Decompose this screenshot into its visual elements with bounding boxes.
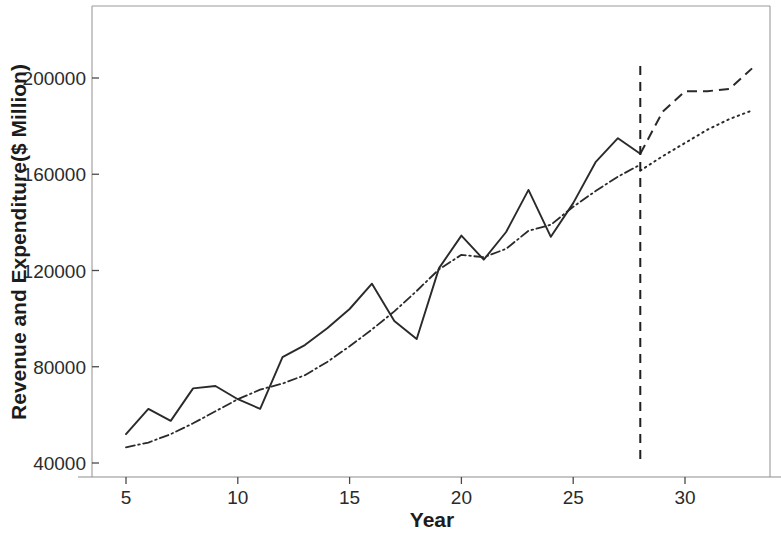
series-line bbox=[640, 110, 752, 170]
x-tick-label: 20 bbox=[451, 487, 472, 508]
y-axis-title: Revenue and Expenditure($ Million) bbox=[7, 64, 30, 420]
x-tick-label: 30 bbox=[674, 487, 695, 508]
x-tick-label: 15 bbox=[339, 487, 360, 508]
x-tick-label: 10 bbox=[227, 487, 248, 508]
chart-container: 4000080000120000160000200000 51015202530… bbox=[0, 0, 781, 540]
series-line bbox=[640, 68, 752, 153]
x-tick-label: 5 bbox=[121, 487, 132, 508]
line-chart-plot: 4000080000120000160000200000 51015202530… bbox=[0, 0, 781, 540]
series-line bbox=[126, 138, 640, 434]
y-tick-label: 40000 bbox=[33, 453, 86, 474]
y-tick-label: 120000 bbox=[23, 261, 86, 282]
series-line bbox=[126, 165, 640, 448]
y-tick-label: 160000 bbox=[23, 164, 86, 185]
x-tick-label: 25 bbox=[563, 487, 584, 508]
y-tick-label: 200000 bbox=[23, 68, 86, 89]
y-tick-label: 80000 bbox=[33, 357, 86, 378]
data-series-layer bbox=[126, 68, 752, 447]
y-axis-ticks: 4000080000120000160000200000 bbox=[23, 68, 99, 474]
x-axis-ticks: 51015202530 bbox=[121, 477, 696, 508]
x-axis-title: Year bbox=[410, 508, 454, 531]
plot-frame bbox=[78, 6, 781, 477]
